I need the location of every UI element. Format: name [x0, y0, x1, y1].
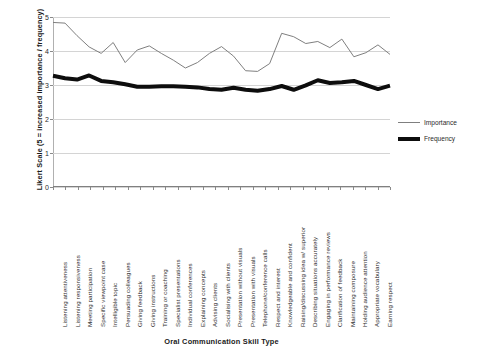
y-tick-label: 1	[45, 150, 49, 157]
chart-legend: Importance Frequency	[398, 119, 480, 151]
x-tick-label: Training or coaching	[161, 269, 168, 327]
x-tick-label: Socialising with clients	[224, 263, 231, 327]
x-tick-label: Persuading colleagues	[124, 262, 131, 327]
x-tick-label: Intelligible topic	[111, 283, 118, 327]
y-tick-label: 2	[45, 116, 49, 123]
series-lines	[53, 17, 390, 187]
x-tick-label: Earning respect	[386, 282, 393, 327]
x-tick-label: Explaining concepts	[199, 270, 206, 327]
legend-label-frequency: Frequency	[424, 135, 455, 142]
x-axis-title: Oral Communication Skill Type	[53, 337, 390, 346]
y-tick-label: 5	[45, 14, 49, 21]
x-tick-label: Meeting participation	[86, 268, 93, 327]
x-tick-label: Individual conferences	[186, 263, 193, 327]
y-tick-label: 3	[45, 82, 49, 89]
series-line-frequency	[53, 75, 390, 90]
y-tick-label: 4	[45, 48, 49, 55]
x-tick-label: Giving feedback	[136, 281, 143, 327]
chart-figure: Likert Scale (5 = increased importance /…	[0, 0, 483, 358]
legend-swatch-importance	[398, 122, 420, 123]
legend-item-importance: Importance	[398, 119, 480, 126]
x-tick-label: Describing situations accurately	[311, 237, 318, 327]
legend-swatch-frequency	[398, 137, 420, 141]
x-tick-label: Giving instructions	[149, 275, 156, 327]
x-tick-label: Holding audience attention	[361, 251, 368, 327]
x-tick-label: Clarification of feedback	[336, 258, 343, 327]
x-axis-tick-labels: Listening attentivenessListening respons…	[53, 189, 390, 329]
x-tick-label: Advising clients	[211, 283, 218, 327]
x-tick-label: Listening attentiveness	[61, 262, 68, 327]
x-tick-mark	[390, 187, 391, 190]
x-tick-label: Specialist presentations	[174, 259, 181, 327]
x-tick-label: Presentation with visuals	[249, 256, 256, 327]
x-tick-label: Maintaining composure	[349, 261, 356, 327]
series-line-importance	[53, 22, 390, 71]
x-tick-label: Knowledgeable and confident	[286, 243, 293, 327]
x-tick-label: Engaging in performance reviews	[324, 232, 331, 327]
x-tick-label: Presentation without visuals	[236, 248, 243, 328]
plot-area: 012345	[53, 17, 390, 187]
x-tick-label: Appropriate vocabulary	[373, 261, 380, 327]
legend-item-frequency: Frequency	[398, 135, 480, 142]
x-tick-label: Specific viewpoint case	[99, 261, 106, 327]
y-tick-label: 0	[45, 184, 49, 191]
x-tick-label: Raising/discussing idea w/ superior	[299, 227, 306, 327]
y-axis-title: Likert Scale (5 = increased importance /…	[35, 0, 44, 200]
x-tick-label: Listening responsiveness	[74, 255, 81, 327]
legend-label-importance: Importance	[424, 119, 457, 126]
x-tick-label: Respect and interest	[274, 268, 281, 327]
x-tick-label: Telephone/conference calls	[261, 249, 268, 327]
